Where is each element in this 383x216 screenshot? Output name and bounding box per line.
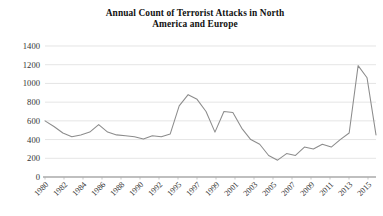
- x-axis-tick-label: 1986: [89, 180, 107, 198]
- x-axis-tick-labels: 1980198219841986198819901992199519971999…: [32, 180, 373, 198]
- y-axis-tick-label: 600: [27, 116, 40, 126]
- x-axis-tick-label: 1980: [32, 180, 50, 198]
- x-axis-tick-label: 2009: [298, 180, 316, 198]
- x-axis-tick-label: 2013: [336, 180, 354, 198]
- x-axis-tick-label: 2007: [279, 180, 297, 198]
- series-line-annual-count: [45, 66, 376, 161]
- y-axis-tick-label: 400: [27, 135, 40, 145]
- x-axis: [43, 177, 376, 180]
- x-axis-tick-label: 2015: [355, 180, 373, 198]
- y-axis-tick-label: 200: [27, 153, 40, 163]
- gridlines: [45, 46, 376, 158]
- x-axis-tick-label: 1990: [127, 180, 145, 198]
- x-axis-tick-label: 2011: [318, 180, 336, 198]
- y-axis-tick-label: 1200: [23, 60, 40, 70]
- y-axis-tick-label: 1400: [23, 41, 40, 51]
- x-axis-tick-label: 1995: [165, 180, 183, 198]
- chart-figure: Annual Count of Terrorist Attacks in Nor…: [0, 0, 383, 216]
- x-axis-tick-label: 2003: [241, 180, 259, 198]
- x-axis-tick-label: 2005: [260, 180, 278, 198]
- x-axis-tick-label: 1997: [184, 180, 202, 198]
- x-axis-tick-label: 1999: [203, 180, 221, 198]
- x-axis-tick-label: 2001: [222, 180, 240, 198]
- x-axis-tick-label: 1982: [51, 180, 69, 198]
- data-series-line: [45, 66, 376, 161]
- y-axis-tick-label: 1000: [23, 78, 40, 88]
- x-axis-tick-label: 1984: [70, 180, 88, 198]
- y-axis-tick-labels: 0200400600800100012001400: [23, 41, 40, 182]
- x-axis-tick-label: 1988: [108, 180, 126, 198]
- y-axis-tick-label: 0: [36, 172, 40, 182]
- x-axis-tick-label: 1992: [146, 180, 164, 198]
- plot-area: 0200400600800100012001400 19801982198419…: [0, 0, 383, 216]
- y-axis-tick-label: 800: [27, 97, 40, 107]
